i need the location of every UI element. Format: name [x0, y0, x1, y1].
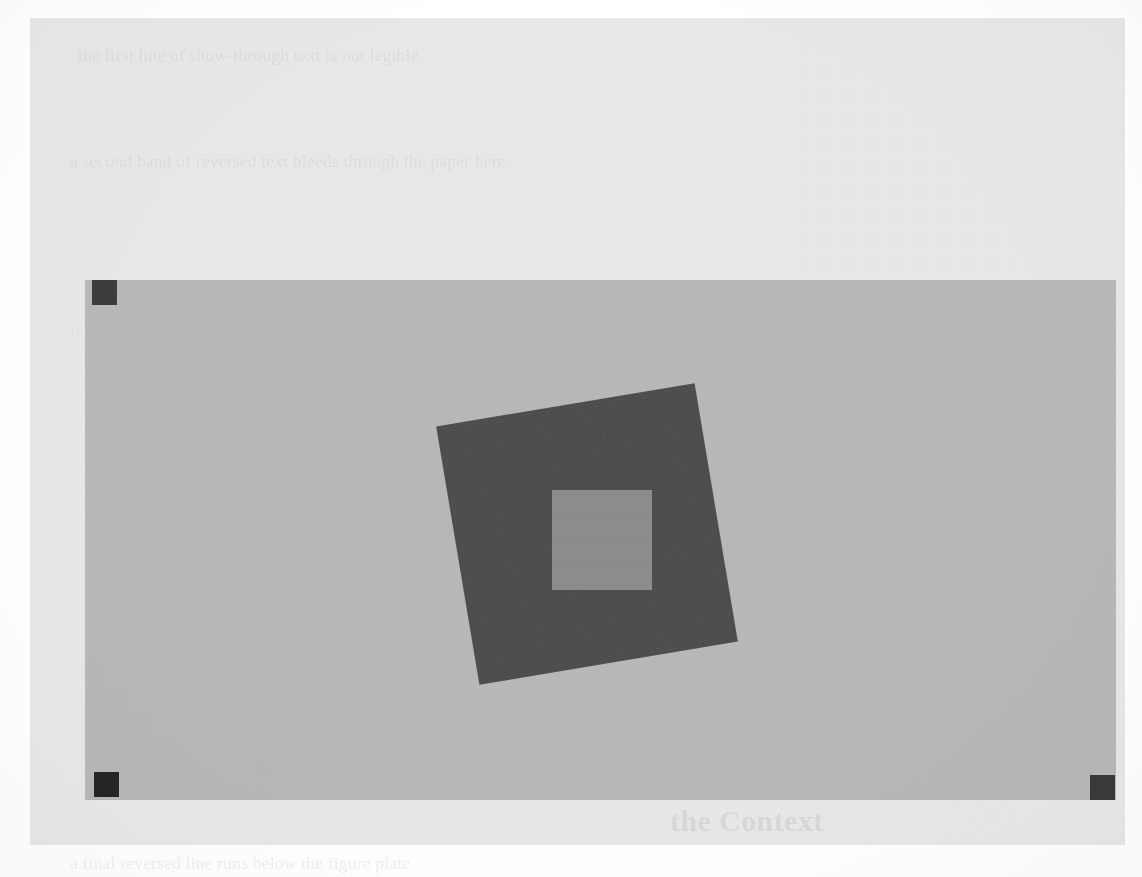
paper-sheet: the first line of show-through text is n… — [30, 18, 1125, 845]
ghost-text-top-line: the first line of show-through text is n… — [78, 40, 419, 70]
ghost-text-heading: the Context — [670, 804, 824, 838]
scanned-page: the first line of show-through text is n… — [0, 0, 1142, 877]
fiducial-marker-top-left — [92, 280, 117, 305]
fiducial-marker-bottom-right — [1090, 775, 1115, 800]
inner-square-grain-texture — [552, 490, 652, 590]
figure-calibration-plate — [85, 280, 1116, 800]
ghost-text-mid-line: a second band of reversed text bleeds th… — [70, 146, 506, 176]
inner-light-square — [552, 490, 652, 590]
fiducial-marker-bottom-left — [94, 772, 119, 797]
ghost-text-bottom-line: a final reversed line runs below the fig… — [70, 848, 410, 877]
